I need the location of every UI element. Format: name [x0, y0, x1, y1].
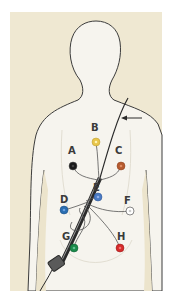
electrode-label-c: C: [115, 146, 122, 156]
electrode-f: [126, 207, 134, 215]
electrode-label-e: E: [93, 183, 100, 193]
electrode-c: [117, 162, 125, 170]
electrode-d: [60, 206, 68, 214]
electrode-label-d: D: [60, 195, 68, 205]
electrode-label-h: H: [117, 232, 125, 242]
electrode-e: [94, 193, 102, 201]
electrode-label-a: A: [68, 146, 76, 156]
electrode-h: [116, 244, 124, 252]
body-silhouette: [28, 21, 162, 291]
electrode-label-b: B: [91, 123, 99, 133]
electrode-label-g: G: [62, 232, 70, 242]
electrode-a: [69, 162, 77, 170]
electrode-label-f: F: [124, 196, 131, 206]
electrode-b: [92, 138, 100, 146]
torso-diagram: [0, 0, 169, 291]
electrode-g: [70, 244, 78, 252]
